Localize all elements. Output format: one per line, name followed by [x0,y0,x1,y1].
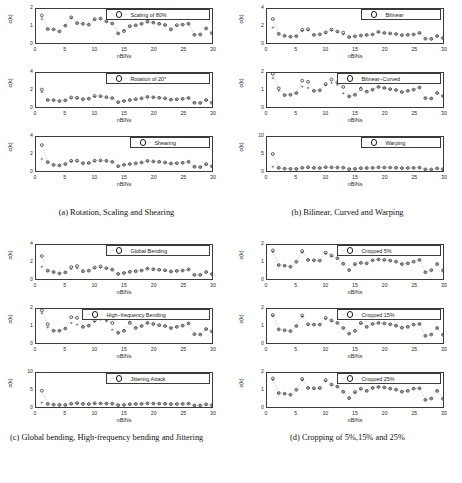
data-point-circle [436,327,439,330]
data-point-circle [199,102,202,105]
data-point-circle [40,88,43,91]
x-tick-label: 10 [322,46,328,52]
data-point-circle [301,79,304,82]
data-point-circle [348,168,351,171]
data-point-circle [193,101,196,104]
data-point-circle [312,387,315,390]
data-point-circle [105,96,108,99]
x-tick-label: 15 [121,410,127,416]
data-point-circle [211,273,212,276]
data-point-circle [342,262,345,265]
legend-label: Rotation of 20° [130,76,166,82]
data-point-circle [169,162,172,165]
data-point-circle [377,86,380,89]
x-tick-label: 15 [352,174,358,180]
x-tick-label: 10 [322,282,328,288]
data-point-circle [169,270,172,273]
data-point-circle [93,402,96,405]
data-point-circle [87,23,90,26]
series-line-circles [273,154,443,169]
x-tick-label: 10 [322,410,328,416]
data-point-circle [187,160,190,163]
legend-dotted-line: ·· [111,376,115,381]
data-point-circle [348,36,351,39]
data-point-circle [365,262,368,265]
x-axis-label: nBINs [35,417,213,423]
data-point-circle [365,389,368,392]
y-tick-label: 2 [248,305,264,310]
x-tick-label: 15 [352,410,358,416]
data-point-circle [211,165,212,168]
x-tick-label: 15 [121,174,127,180]
data-point-circle [146,96,149,99]
legend-marker-sample: ···· [366,139,382,145]
legend-marker-sample: ···· [111,247,127,253]
data-point-circle [383,32,386,35]
data-point-circle [81,22,84,25]
data-point-circle [52,403,55,406]
data-point-circle [64,404,67,407]
data-point-circle [193,404,196,407]
data-point-circle [389,166,392,169]
data-point-circle [117,272,120,275]
data-point-circle [318,89,321,92]
y-tick-label: 1 [248,87,264,92]
x-tick-label: 0 [34,110,37,116]
y-tick-label: 4 [17,133,33,138]
y-axis-label: c(k) [238,241,244,269]
legend-dotted-line: ·· [342,376,346,381]
y-tick-label: 1 [248,323,264,328]
data-point-circle [342,327,345,330]
subfigure-caption-b: (b) Bilinear, Curved and Warping [245,207,450,218]
data-point-circle [117,331,120,334]
x-tick-label: 5 [63,410,66,416]
plot-panel: c(k)0510····Jittering Attack051015202530… [2,366,231,428]
data-point-circle [46,402,49,405]
data-point-circle [128,163,131,166]
figure-page: c(k)012····Scaling of 80%051015202530nBI… [0,0,462,483]
x-tick-label: 30 [210,410,216,416]
data-point-circle [181,97,184,100]
legend-label: Scaling of 80% [130,12,166,18]
data-point-circle [289,265,292,268]
data-point-circle [164,325,167,328]
data-point-circle [205,328,208,331]
data-point-circle [152,160,155,163]
x-axis-label: nBINs [266,417,444,423]
data-point-circle [99,17,102,20]
subfigure-a: c(k)012····Scaling of 80%051015202530nBI… [2,2,231,234]
legend-label: Shearing [154,140,176,146]
data-point-circle [289,93,292,96]
data-point-circle [52,329,55,332]
y-axis-label: c(k) [7,369,13,397]
y-tick-label: 0 [17,169,33,174]
data-point-circle [58,30,61,33]
data-point-circle [430,397,433,400]
subfigure-caption-a: (a) Rotation, Scaling and Shearing [14,207,219,218]
data-point-circle [307,28,310,31]
x-tick-label: 10 [322,346,328,352]
data-point-circle [359,34,362,37]
data-point-circle [140,22,143,25]
legend-circle-icon [116,375,122,381]
panel-stack-d: c(k)012····Cropped 5%051015202530nBINsc(… [233,238,462,428]
data-point-circle [146,160,149,163]
data-point-circle [307,259,310,262]
x-tick-label: 30 [210,46,216,52]
x-tick-label: 30 [210,282,216,288]
x-tick-label: 5 [63,174,66,180]
data-point-circle [111,22,114,25]
data-point-circle [330,28,333,31]
legend-dotted-line: ·· [123,76,127,81]
data-point-circle [146,267,149,270]
data-point-circle [406,33,409,36]
data-point-circle [359,167,362,170]
x-tick-label: 10 [322,174,328,180]
data-point-circle [354,35,357,38]
data-point-circle [318,259,321,262]
y-tick-label: 10 [17,369,33,374]
data-point-circle [93,159,96,162]
data-point-circle [371,323,374,326]
data-point-circle [123,163,126,166]
legend-circle-icon [347,375,353,381]
